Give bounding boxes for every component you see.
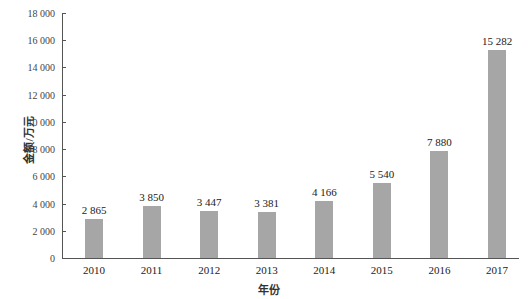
- bar-value-label: 4 166: [312, 186, 337, 198]
- y-tick-mark: [62, 67, 66, 68]
- bar-value-label: 2 865: [82, 204, 107, 216]
- y-tick-label: 16 000: [28, 35, 56, 46]
- y-tick-mark: [62, 40, 66, 41]
- y-tick-label: 0: [50, 253, 55, 264]
- y-axis-line: [62, 13, 63, 259]
- y-tick-label: 14 000: [28, 62, 56, 73]
- y-tick-label: 6 000: [33, 171, 56, 182]
- y-tick-mark: [62, 231, 66, 232]
- bar-2010: [85, 219, 103, 258]
- x-tick-label: 2013: [256, 264, 278, 276]
- x-tick-label: 2014: [313, 264, 335, 276]
- bar-value-label: 15 282: [482, 35, 512, 47]
- x-tick-label: 2017: [486, 264, 508, 276]
- x-tick-label: 2012: [198, 264, 220, 276]
- x-tick-label: 2015: [371, 264, 393, 276]
- bar-2016: [430, 151, 448, 258]
- y-tick-label: 4 000: [33, 198, 56, 209]
- bar-2017: [488, 50, 506, 258]
- bar-value-label: 7 880: [427, 136, 452, 148]
- bar-2014: [315, 201, 333, 258]
- y-tick-mark: [62, 122, 66, 123]
- bar-value-label: 3 447: [197, 196, 222, 208]
- y-tick-label: 12 000: [28, 89, 56, 100]
- y-tick-mark: [62, 176, 66, 177]
- y-tick-mark: [62, 13, 66, 14]
- x-tick-label: 2016: [428, 264, 450, 276]
- y-tick-mark: [62, 95, 66, 96]
- x-tick-label: 2010: [83, 264, 105, 276]
- y-axis-title: 金额/万元: [20, 116, 36, 163]
- y-tick-mark: [62, 258, 66, 259]
- bar-value-label: 3 850: [139, 191, 164, 203]
- y-tick-label: 18 000: [28, 8, 56, 19]
- y-tick-label: 2 000: [33, 225, 56, 236]
- y-tick-mark: [62, 204, 66, 205]
- bar-2011: [143, 206, 161, 258]
- y-tick-mark: [62, 149, 66, 150]
- y-tick-label: 8 000: [33, 144, 56, 155]
- bar-2015: [373, 183, 391, 258]
- x-tick-label: 2011: [141, 264, 163, 276]
- x-axis-title: 年份: [258, 281, 280, 297]
- bar-2013: [258, 212, 276, 258]
- bar-value-label: 3 381: [254, 197, 279, 209]
- bar-2012: [200, 211, 218, 258]
- bar-value-label: 5 540: [369, 168, 394, 180]
- x-axis-line: [62, 258, 519, 259]
